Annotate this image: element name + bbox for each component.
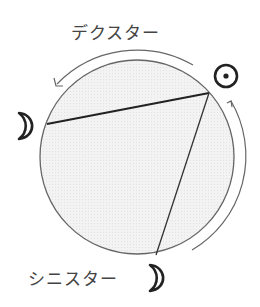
dexter-label: デクスター — [71, 19, 160, 44]
aspect-diagram: デクスター シニスター — [0, 0, 260, 307]
diagram-graphic — [0, 0, 260, 307]
moon-icon — [150, 265, 163, 291]
chart-circle — [40, 60, 234, 254]
moon-icon — [19, 113, 32, 139]
sun-icon — [215, 65, 237, 87]
sinister-label: シニスター — [28, 265, 118, 290]
arrow-head-icon — [227, 101, 232, 107]
